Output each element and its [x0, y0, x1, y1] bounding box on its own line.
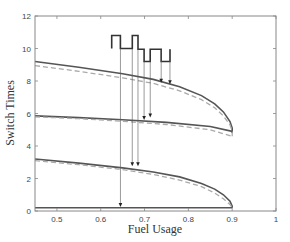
arrowhead-icon	[148, 114, 152, 118]
arrowhead-icon	[142, 116, 146, 120]
series-line	[35, 159, 232, 208]
x-ticks: 0.50.60.70.80.91	[51, 16, 278, 224]
y-tick-label: 12	[22, 12, 31, 21]
y-tick-label: 8	[27, 77, 32, 86]
chart: 0.50.60.70.80.91 024681012 Fuel Usage Sw…	[0, 0, 290, 242]
x-axis-label: Fuel Usage	[128, 222, 182, 236]
y-tick-label: 6	[27, 110, 32, 119]
y-tick-label: 4	[27, 142, 32, 151]
arrowhead-icon	[136, 162, 140, 166]
plot-area	[35, 36, 232, 208]
x-tick-label: 0.5	[51, 215, 63, 224]
y-tick-label: 0	[27, 207, 32, 216]
arrowhead-icon	[130, 162, 134, 166]
y-tick-label: 10	[22, 45, 31, 54]
y-axis-label: Switch Times	[3, 80, 17, 146]
x-tick-label: 0.8	[183, 215, 195, 224]
x-tick-label: 0.6	[95, 215, 107, 224]
axes-frame	[35, 16, 276, 211]
arrowhead-icon	[119, 203, 123, 207]
y-tick-label: 2	[27, 175, 32, 184]
x-tick-label: 0.9	[227, 215, 239, 224]
x-tick-label: 1	[274, 215, 279, 224]
axes-box	[35, 16, 276, 211]
